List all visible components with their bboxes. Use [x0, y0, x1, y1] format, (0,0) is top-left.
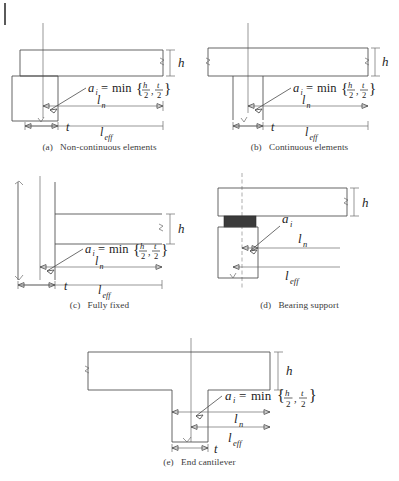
leader-ai-e: [196, 396, 222, 416]
label-ln-e: l n: [234, 411, 243, 429]
svg-text:2: 2: [141, 251, 145, 261]
svg-text:=: =: [306, 81, 313, 95]
svg-text:{: {: [277, 387, 285, 404]
svg-text:a: a: [225, 388, 232, 403]
svg-text:i: i: [290, 219, 293, 229]
svg-text:l: l: [298, 231, 302, 246]
caption-c: (c) Fully fixed: [0, 300, 199, 310]
leader-arrow-ai-d: [250, 250, 257, 254]
svg-text:eff: eff: [310, 133, 320, 142]
caption-a-label: (a): [42, 142, 53, 152]
label-ln-d: l n: [298, 231, 307, 249]
svg-text:l: l: [100, 125, 104, 139]
caption-c-label: (c): [70, 300, 81, 310]
beam-outline-a: [20, 50, 163, 76]
caption-d: (d) Bearing support: [200, 300, 399, 310]
svg-text:h: h: [140, 241, 144, 251]
svg-text:n: n: [303, 239, 307, 249]
svg-text:eff: eff: [233, 438, 243, 448]
svg-text:h: h: [285, 388, 290, 398]
svg-text:=: =: [101, 81, 108, 95]
svg-text:h: h: [348, 80, 352, 90]
svg-text:a: a: [282, 211, 289, 226]
svg-text:,: ,: [151, 85, 154, 96]
caption-b-label: (b): [251, 142, 262, 152]
svg-text:min: min: [317, 81, 337, 95]
svg-text:n: n: [100, 262, 104, 271]
break-symbol-left-b: [206, 58, 210, 65]
label-ln-a: l n: [97, 93, 106, 110]
break-symbol-bottom-e: [183, 437, 191, 442]
formula-e: a i = min { h 2 , t 2 }: [225, 387, 317, 409]
svg-text:}: }: [309, 387, 317, 404]
svg-text:l: l: [95, 254, 99, 268]
label-leff-e: l eff: [228, 430, 243, 448]
caption-e-text: End cantilever: [181, 457, 236, 467]
label-h-c: h: [178, 221, 185, 236]
panel-b: h a i = min { h: [200, 18, 399, 140]
leader-ai-d: [250, 226, 280, 251]
leader-arrow-ai-c: [47, 270, 54, 274]
svg-text:min: min: [251, 388, 272, 403]
figure-canvas: h a i = min: [0, 0, 399, 481]
svg-text:a: a: [85, 242, 91, 256]
svg-text:=: =: [98, 242, 105, 256]
break-symbol-col-b: [241, 117, 247, 122]
label-leff-c: l eff: [98, 283, 112, 300]
leader-ai-b: [255, 88, 291, 110]
caption-c-text: Fully fixed: [88, 300, 130, 310]
svg-text:2: 2: [154, 251, 158, 261]
svg-text:2: 2: [349, 90, 353, 100]
svg-text:a: a: [88, 81, 94, 95]
svg-text:2: 2: [157, 90, 161, 100]
label-ln-c: l n: [95, 254, 104, 271]
break-symbol-top-c: [15, 181, 23, 185]
svg-text:2: 2: [144, 90, 148, 100]
label-t-a: t: [66, 120, 70, 134]
label-h-e: h: [286, 363, 293, 378]
svg-text:eff: eff: [105, 133, 115, 142]
svg-text:l: l: [97, 93, 101, 107]
panel-a: h a i = min: [0, 18, 199, 140]
formula-a: a i = min { h 2 , t 2 }: [88, 80, 171, 100]
break-symbol-support-d: [230, 273, 236, 278]
caption-b-text: Continuous elements: [269, 142, 348, 152]
caption-e: (e) End cantilever: [0, 457, 399, 467]
svg-text:2: 2: [286, 399, 291, 409]
svg-text:}: }: [164, 80, 171, 96]
caption-d-label: (d): [260, 300, 271, 310]
svg-text:,: ,: [294, 393, 297, 404]
leader-arrow-ai-a: [50, 109, 57, 113]
support-wall-a: [12, 76, 58, 121]
label-leff-a: l eff: [100, 125, 114, 142]
label-t-b: t: [271, 120, 275, 134]
svg-text:=: =: [239, 388, 246, 403]
svg-text:n: n: [239, 419, 243, 429]
svg-text:,: ,: [148, 246, 151, 257]
leader-ai-c: [47, 249, 83, 271]
label-h-d: h: [362, 195, 369, 210]
caption-a-text: Non-continuous elements: [60, 142, 156, 152]
caption-b: (b) Continuous elements: [200, 142, 399, 152]
bearing-pad-d: [224, 216, 256, 227]
svg-text:t: t: [154, 241, 157, 251]
leader-ai-a: [50, 88, 86, 110]
svg-text:t: t: [157, 80, 160, 90]
svg-text:l: l: [285, 268, 289, 283]
svg-text:i: i: [233, 395, 236, 405]
svg-text:}: }: [161, 241, 168, 257]
svg-text:t: t: [301, 388, 304, 398]
svg-text:2: 2: [362, 90, 366, 100]
beam-outline-b: [208, 48, 368, 76]
formula-b: a i = min { h 2 , t 2 }: [293, 80, 376, 100]
panel-e: h t a i = min {: [0, 330, 399, 458]
svg-text:h: h: [143, 80, 147, 90]
label-leff-d: l eff: [285, 268, 300, 286]
label-leff-b: l eff: [305, 125, 319, 142]
label-ln-b: l n: [302, 93, 311, 110]
panel-c: h a i = min { h: [0, 168, 199, 294]
svg-text:min: min: [112, 81, 132, 95]
svg-text:}: }: [369, 80, 376, 96]
svg-text:l: l: [302, 93, 306, 107]
svg-text:l: l: [234, 411, 238, 426]
